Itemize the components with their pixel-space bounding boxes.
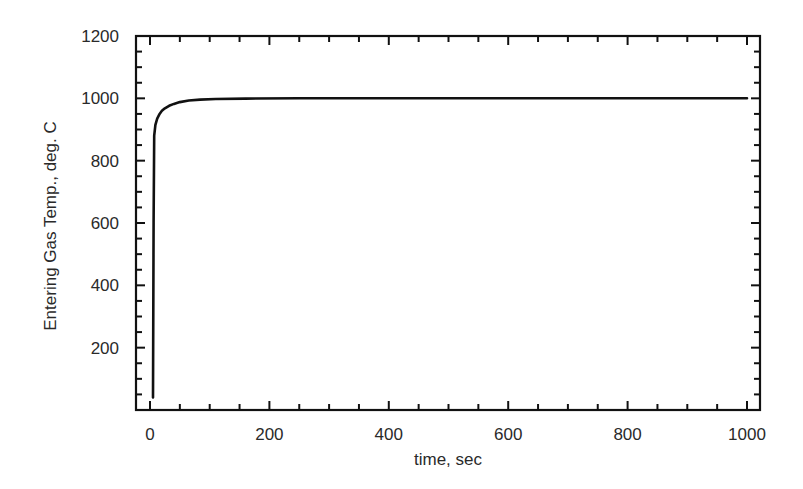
y-tick-label: 1000: [81, 89, 119, 108]
x-tick-label: 400: [375, 425, 403, 444]
y-axis-ticks: [136, 52, 760, 395]
x-axis-tick-labels: 02004006008001000: [145, 425, 766, 444]
y-tick-label: 1200: [81, 27, 119, 46]
y-axis-label: Entering Gas Temp., deg. C: [41, 121, 60, 330]
x-tick-label: 1000: [728, 425, 766, 444]
plot-frame: [136, 36, 760, 410]
y-axis-tick-labels: 20040060080010001200: [81, 27, 119, 358]
x-axis-ticks: [150, 36, 747, 410]
x-tick-label: 200: [255, 425, 283, 444]
y-tick-label: 200: [91, 339, 119, 358]
x-tick-label: 800: [613, 425, 641, 444]
y-tick-label: 800: [91, 152, 119, 171]
y-tick-label: 400: [91, 276, 119, 295]
x-tick-label: 0: [145, 425, 154, 444]
x-axis-label: time, sec: [414, 450, 483, 469]
y-tick-label: 600: [91, 214, 119, 233]
x-tick-label: 600: [494, 425, 522, 444]
data-series: [153, 98, 747, 397]
series-line: [153, 98, 747, 397]
chart: 02004006008001000 20040060080010001200 t…: [0, 0, 803, 489]
